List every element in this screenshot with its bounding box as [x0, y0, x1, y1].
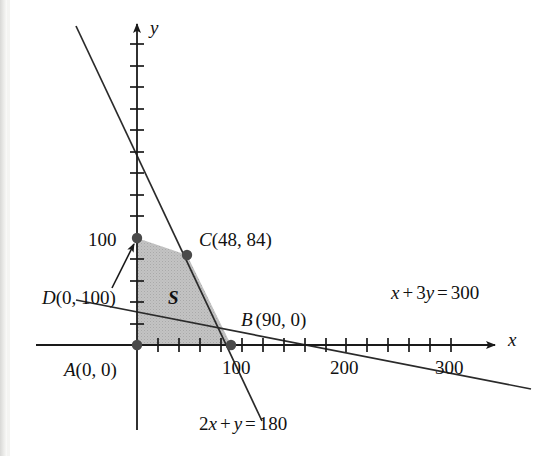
eq2-var1: x [209, 413, 217, 434]
vertex-letter-C: C [199, 229, 212, 250]
vertex-letter-B: B [241, 309, 253, 330]
y-tick-label-100: 100 [88, 230, 117, 249]
eq2-op: + [220, 413, 231, 434]
vertex-label-D: D(0, 100) [42, 288, 116, 307]
plot-canvas [0, 0, 549, 456]
region-label-S: S [168, 288, 179, 307]
x-tick-label-100: 100 [222, 358, 251, 377]
vertex-label-B: B(90, 0) [241, 310, 306, 329]
vertex-coords-D: (0, 100) [56, 287, 116, 308]
eq1-op: + [402, 282, 413, 303]
linear-programming-figure: x y 100 100 200 300 A(0, 0) B(90, 0) C(4… [0, 0, 549, 456]
eq2-rhs: 180 [259, 413, 288, 434]
eq2-equals: = [245, 413, 256, 434]
x-tick-label-300: 300 [435, 358, 464, 377]
vertex-coords-C: (48, 84) [212, 229, 272, 250]
eq1-equals: = [437, 282, 448, 303]
eq2-var2: y [234, 413, 242, 434]
eq1-var2: y [426, 282, 434, 303]
x-axis-label: x [508, 330, 516, 349]
eq1-rhs: 300 [451, 282, 480, 303]
vertex-coords-A: (0, 0) [76, 359, 117, 380]
eq1-coef2: 3 [416, 282, 426, 303]
line-label-x-plus-3y-equals-300: x+3y=300 [391, 283, 479, 302]
vertex-letter-D: D [42, 287, 56, 308]
vertex-coords-B: (90, 0) [256, 309, 307, 330]
eq2-coef1: 2 [199, 413, 209, 434]
vertex-label-C: C(48, 84) [199, 230, 272, 249]
vertex-letter-A: A [64, 359, 76, 380]
y-axis-label: y [150, 18, 158, 37]
vertex-label-A: A(0, 0) [64, 360, 117, 379]
vertex-dot-C [182, 250, 192, 260]
line-label-2x-plus-y-equals-180: 2x+y=180 [199, 414, 287, 433]
eq1-var1: x [391, 282, 399, 303]
x-tick-label-200: 200 [330, 358, 359, 377]
vertex-dot-D [132, 233, 142, 243]
vertex-dot-B [226, 340, 236, 350]
vertex-dot-A [132, 340, 142, 350]
